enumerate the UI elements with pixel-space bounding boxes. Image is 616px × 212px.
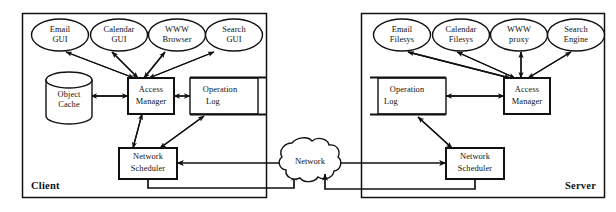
node-email-filesys-line2: Filesys [390, 35, 414, 44]
node-server-operation-log[interactable]: Operation Log [370, 78, 446, 115]
edge-calendar-filesys-to-server-access-manager [457, 52, 515, 78]
node-email-filesys-line1: Email [392, 25, 413, 34]
edge-network-scheduler-to-access-manager [133, 114, 142, 148]
node-client-network-scheduler-line2: Scheduler [131, 164, 165, 173]
node-search-engine-line2: Engine [564, 35, 589, 44]
node-network-label: Network [295, 156, 326, 166]
node-email-gui-line2: GUI [52, 35, 67, 44]
node-server-access-manager-line2: Manager [512, 97, 543, 106]
node-calendar-filesys-line1: Calendar [445, 25, 476, 34]
node-client-access-manager-line1: Access [139, 85, 163, 94]
diagram-canvas: Email GUI Calendar GUI WWW Browser Searc… [0, 0, 616, 212]
node-calendar-gui-line1: Calendar [103, 25, 134, 34]
node-object-cache[interactable]: Object Cache [46, 72, 92, 124]
edge-search-gui-to-access-manager [149, 52, 214, 78]
node-server-access-manager-line1: Access [515, 85, 539, 94]
node-client-network-scheduler[interactable]: Network Scheduler [119, 148, 177, 179]
node-server-operation-log-line2: Log [384, 97, 399, 106]
edge-search-engine-to-server-access-manager [528, 52, 571, 78]
edge-www-browser-to-access-manager [144, 52, 165, 78]
node-search-engine-line1: Search [564, 25, 588, 34]
node-client-operation-log-line2: Log [206, 97, 221, 106]
node-server-network-scheduler-line2: Scheduler [458, 164, 492, 173]
node-client-operation-log[interactable]: Operation Log [190, 78, 266, 115]
edge-email-filesys-to-server-access-manager [408, 52, 510, 78]
node-www-browser-line2: Browser [162, 35, 191, 44]
node-network-cloud[interactable]: Network [279, 138, 341, 182]
node-server-network-scheduler[interactable]: Network Scheduler [446, 148, 504, 179]
edge-network-scheduler-to-operation-log [160, 116, 204, 148]
node-search-gui-line1: Search [222, 25, 246, 34]
node-www-proxy-line1: WWW [507, 25, 531, 34]
node-email-gui-line1: Email [50, 25, 71, 34]
node-www-proxy-line2: proxy [509, 35, 530, 44]
node-search-gui-line2: GUI [226, 35, 241, 44]
architecture-diagram: Email GUI Calendar GUI WWW Browser Searc… [0, 0, 616, 212]
client-application-nodes: Email GUI Calendar GUI WWW Browser Searc… [32, 19, 263, 51]
node-object-cache-line1: Object [58, 90, 81, 99]
node-client-network-scheduler-line1: Network [133, 152, 164, 161]
node-calendar-gui-line2: GUI [111, 35, 126, 44]
server-zone-label: Server [565, 180, 596, 191]
node-server-access-manager[interactable]: Access Manager [504, 78, 550, 114]
client-zone-label: Client [31, 180, 60, 191]
node-server-operation-log-line1: Operation [390, 85, 425, 94]
node-server-network-scheduler-line1: Network [460, 152, 491, 161]
node-client-access-manager-line2: Manager [136, 97, 167, 106]
edge-server-network-scheduler-to-operation-log [418, 117, 452, 148]
node-object-cache-line2: Cache [58, 100, 80, 109]
server-service-nodes: Email Filesys Calendar Filesys WWW proxy… [374, 19, 605, 51]
node-client-access-manager[interactable]: Access Manager [128, 78, 174, 114]
client-connectors [66, 52, 294, 188]
node-www-browser-line1: WWW [165, 25, 189, 34]
node-calendar-filesys-line2: Filesys [449, 35, 473, 44]
node-client-operation-log-line1: Operation [203, 85, 238, 94]
